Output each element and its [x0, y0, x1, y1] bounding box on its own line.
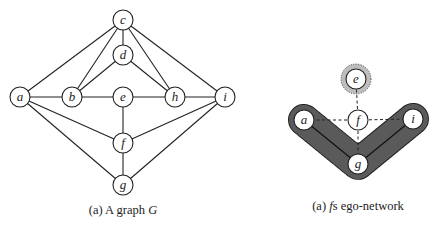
- node-b: b: [62, 87, 82, 107]
- ego-node-f: f: [348, 110, 368, 130]
- ego-node-e: e: [346, 69, 366, 89]
- svg-text:b: b: [69, 89, 76, 104]
- edge-c-i: [123, 20, 225, 97]
- svg-text:c: c: [120, 12, 126, 27]
- svg-text:g: g: [120, 177, 127, 192]
- svg-text:h: h: [172, 89, 179, 104]
- ego-node-i: i: [403, 109, 423, 129]
- right-caption: (a) fs ego-network: [312, 199, 404, 214]
- right-caption-prefix: (a): [312, 199, 329, 213]
- left-caption-prefix: (a) A graph: [89, 203, 148, 217]
- svg-text:g: g: [355, 156, 362, 171]
- svg-text:d: d: [120, 47, 127, 62]
- node-d: d: [113, 45, 133, 65]
- graph-diagram: abcdefghiefaig: [0, 0, 436, 227]
- ego-node-g: g: [348, 154, 368, 174]
- ego-network: efaig: [294, 64, 423, 174]
- edge-g-i: [123, 97, 225, 185]
- svg-text:a: a: [17, 89, 24, 104]
- svg-text:i: i: [223, 89, 227, 104]
- node-f: f: [113, 133, 133, 153]
- ego-node-a: a: [294, 110, 314, 130]
- edge-a-g: [20, 97, 123, 185]
- svg-text:e: e: [353, 71, 359, 86]
- svg-text:i: i: [411, 111, 415, 126]
- edge-a-c: [20, 20, 123, 97]
- left-graph: abcdefghi: [10, 10, 235, 195]
- left-caption-var: G: [148, 203, 157, 217]
- node-c: c: [113, 10, 133, 30]
- svg-text:a: a: [301, 112, 308, 127]
- node-g: g: [113, 175, 133, 195]
- svg-text:e: e: [120, 89, 126, 104]
- left-caption: (a) A graph G: [89, 203, 157, 218]
- node-h: h: [165, 87, 185, 107]
- node-a: a: [10, 87, 30, 107]
- right-caption-suffix: s ego-network: [333, 199, 404, 213]
- node-i: i: [215, 87, 235, 107]
- node-e: e: [113, 87, 133, 107]
